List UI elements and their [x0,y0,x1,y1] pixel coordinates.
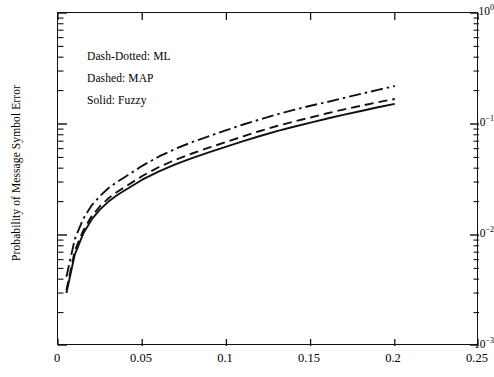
y-axis-title: Probability of Message Symbol Error [10,28,22,318]
legend-entry-map: Dashed: MAP [87,67,171,89]
x-tick-label-0: 0 [40,352,74,365]
series-fuzzy [66,104,394,293]
x-tick-label-0.1: 0.1 [208,352,242,365]
legend-entry-ml: Dash-Dotted: ML [87,45,171,67]
x-tick-label-0.25: 0.25 [460,352,494,365]
legend-entry-fuzzy: Solid: Fuzzy [87,89,171,111]
plot-area: Dash-Dotted: ML Dashed: MAP Solid: Fuzzy [57,12,478,345]
x-tick-label-0.2: 0.2 [376,352,410,365]
data-curves [66,86,394,293]
x-tick-label-0.05: 0.05 [124,352,158,365]
legend: Dash-Dotted: ML Dashed: MAP Solid: Fuzzy [87,45,171,111]
series-map [66,99,394,290]
figure: Probability of Message Symbol Error 100 … [0,0,494,377]
x-tick-label-0.15: 0.15 [292,352,326,365]
